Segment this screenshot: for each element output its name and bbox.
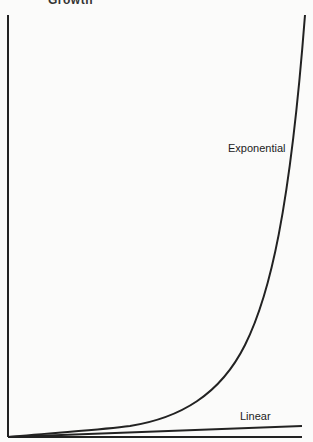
exponential-series-curve bbox=[8, 15, 305, 437]
chart-plot bbox=[0, 0, 313, 442]
linear-series-line bbox=[8, 426, 302, 437]
linear-label: Linear bbox=[240, 410, 271, 422]
exponential-label: Exponential bbox=[228, 142, 286, 154]
